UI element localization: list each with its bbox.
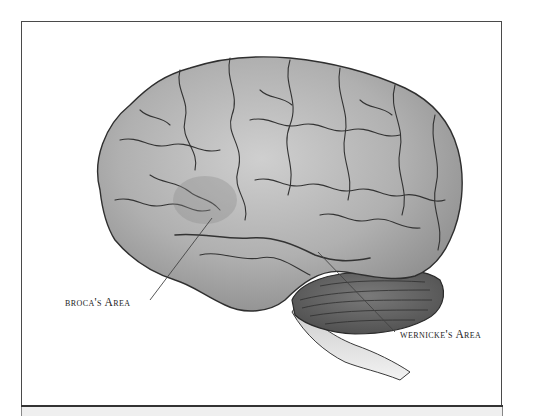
cerebellum	[292, 270, 444, 334]
wernicke-label: wernicke's Area	[400, 328, 481, 340]
brain-illustration	[0, 0, 546, 416]
broca-label: broca's Area	[65, 296, 130, 308]
broca-region	[173, 176, 237, 224]
cerebrum	[98, 57, 463, 311]
caption-band	[21, 407, 503, 416]
